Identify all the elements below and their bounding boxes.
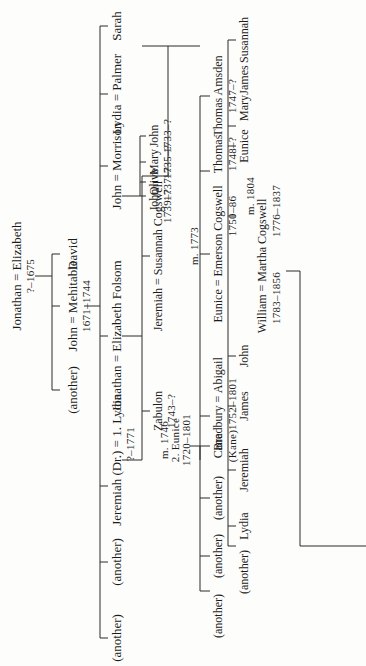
child-another-1: (another) (212, 476, 225, 520)
child-thomas: Thomas (212, 135, 225, 174)
child-another-2: (another) (212, 534, 225, 578)
gchild-william-martha: William = Martha Cogswell (256, 199, 269, 334)
gen3-jonathan-folsom: Jonathan = Elizabeth Folsom (110, 260, 124, 411)
gen3-sarah: Sarah (110, 11, 124, 41)
gen3-jeremiah-dr: Jeremiah (Dr.) = 1. Lydia (110, 394, 124, 526)
gen2-another: (another) (66, 366, 80, 414)
gen2-john-mehitable: John = Mehitable (66, 260, 80, 351)
gchild-susannah: Susannah (238, 17, 251, 63)
tree-connector-lines (0, 0, 366, 666)
gchild-jeremiah: Jeremiah (238, 448, 251, 491)
gchild-martha-dates: 1783–1856 (270, 272, 282, 324)
gchild-john: John (238, 345, 251, 368)
morrison-child-john: John (148, 125, 161, 148)
gen3-john-morrison: John = Morrison (110, 123, 124, 210)
child-eunice-marriage-year: m. 1773 (188, 227, 200, 265)
gchild-lydia: Lydia (238, 512, 251, 539)
family-tree-chart: Jonathan = Elizabeth ?–1675 David John =… (0, 0, 366, 666)
folsom-child-jeremiah-susannah: Jeremiah = Susannah Cogswell (152, 181, 165, 331)
gen1-dates: ?–1675 (24, 259, 36, 293)
gen3-another-2: (another) (110, 614, 124, 662)
gchild-another: (another) (238, 550, 251, 594)
child-another-3: (another) (212, 594, 225, 638)
gen3-another-1: (another) (110, 538, 124, 586)
gchild-james: James (238, 65, 251, 94)
gen2-john-dates: 1671–1744 (80, 280, 92, 332)
gen3-jeremiah-dates: ?–1771 (124, 427, 136, 461)
gchild-eunice: Eunice (238, 129, 251, 162)
child-eunice-dates: 1750–86 (226, 196, 238, 237)
child-cane: Cane (212, 434, 225, 459)
gchild-william-dates: 1776–1837 (270, 185, 282, 237)
child-thomas-amsden: Thomas Amsden (212, 56, 225, 137)
gen1-couple: Jonathan = Elizabeth (10, 221, 24, 330)
gchild-mary: Mary (238, 95, 251, 121)
second-wife-dates: 1720–1801 (180, 414, 192, 466)
child-eunice-emerson: Eunice = Emerson Cogswell (212, 185, 225, 322)
gchild-james-2: James (238, 391, 251, 420)
